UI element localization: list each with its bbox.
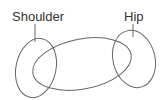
torso-body-shape: [28, 30, 136, 98]
shoulder-ellipse: [10, 34, 62, 100]
hip-ellipse: [107, 26, 162, 92]
hip-label: Hip: [124, 10, 144, 23]
torso-cylinder-diagram: Shoulder Hip: [0, 0, 162, 100]
shoulder-label: Shoulder: [12, 10, 64, 23]
